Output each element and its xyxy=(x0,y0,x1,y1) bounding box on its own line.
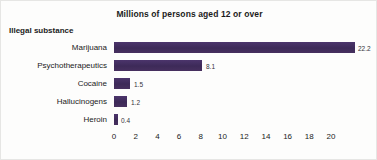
bar-row: Marijuana 22.2 xyxy=(1,39,377,57)
x-tick-label: 14 xyxy=(256,132,276,141)
bar-chart-figure: Millions of persons aged 12 or over Ille… xyxy=(0,0,377,160)
bar-value-psychotherapeutics: 8.1 xyxy=(206,57,215,75)
x-tick-label: 0 xyxy=(104,132,124,141)
bar-value-hallucinogens: 1.2 xyxy=(131,93,140,111)
category-label-hallucinogens: Hallucinogens xyxy=(1,93,107,111)
category-label-cocaine: Cocaine xyxy=(1,75,107,93)
x-tick-label: 2 xyxy=(126,132,146,141)
bar-marijuana xyxy=(114,42,355,53)
bar-value-marijuana: 22.2 xyxy=(358,39,371,57)
bar-hallucinogens xyxy=(114,96,127,107)
bar-row: Hallucinogens 1.2 xyxy=(1,93,377,111)
category-label-marijuana: Marijuana xyxy=(1,39,107,57)
x-tick-label: 16 xyxy=(278,132,298,141)
bar-heroin xyxy=(114,114,118,125)
bar-cocaine xyxy=(114,78,130,89)
x-tick-label: 18 xyxy=(299,132,319,141)
x-tick-label: 10 xyxy=(213,132,233,141)
x-tick-label: 20 xyxy=(321,132,341,141)
bar-value-cocaine: 1.5 xyxy=(134,75,143,93)
category-label-psychotherapeutics: Psychotherapeutics xyxy=(1,57,107,75)
bar-row: Psychotherapeutics 8.1 xyxy=(1,57,377,75)
value-axis: 0 2 4 6 8 10 12 14 16 18 20 xyxy=(1,132,377,148)
bar-value-heroin: 0.4 xyxy=(121,111,130,129)
x-tick-label: 6 xyxy=(169,132,189,141)
x-tick-label: 8 xyxy=(191,132,211,141)
bar-psychotherapeutics xyxy=(114,60,202,71)
category-label-heroin: Heroin xyxy=(1,111,107,129)
bar-row: Heroin 0.4 xyxy=(1,111,377,129)
x-tick-label: 12 xyxy=(234,132,254,141)
bar-row: Cocaine 1.5 xyxy=(1,75,377,93)
x-tick-label: 4 xyxy=(147,132,167,141)
